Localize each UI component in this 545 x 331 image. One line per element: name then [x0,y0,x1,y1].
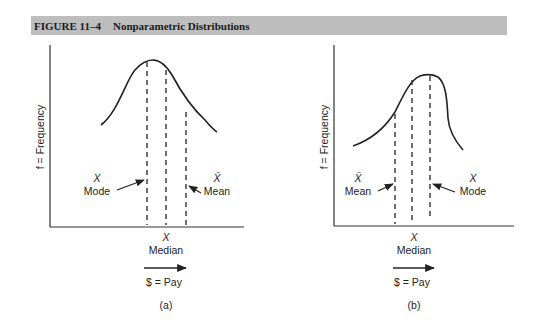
distribution-curve [101,60,217,132]
panel-caption: (a) [160,299,173,311]
mode-arrow [433,184,455,192]
mode-label: Mode [460,185,486,197]
mode-symbol: X [92,172,101,184]
mean-arrow [378,184,393,191]
mode-symbol: X [468,172,477,184]
mode-label: Mode [84,185,110,197]
mean-label: Mean [345,185,371,197]
panel-caption: (b) [408,299,421,311]
median-label: Median [149,244,184,256]
panel-b: f = Frequency X̄ Mean X Mode X Median $ … [318,45,514,311]
y-axis-label: f = Frequency [34,104,46,169]
panel-a: f = Frequency X Mode X̄ Mean X Median $ … [34,45,244,311]
distribution-curve [353,75,463,150]
diagram-canvas: f = Frequency X Mode X̄ Mean X Median $ … [0,0,545,331]
median-symbol: X [161,231,170,243]
y-axis-label: f = Frequency [318,104,330,169]
median-label: Median [397,244,432,256]
mode-arrow [117,180,144,190]
x-axis-label: $ = Pay [394,276,431,288]
median-symbol: X [409,231,418,243]
mean-symbol: X̄ [353,172,362,184]
mean-symbol: X̄ [212,172,221,184]
mean-label: Mean [204,185,230,197]
x-axis-label: $ = Pay [146,276,183,288]
mean-arrow [189,186,201,193]
